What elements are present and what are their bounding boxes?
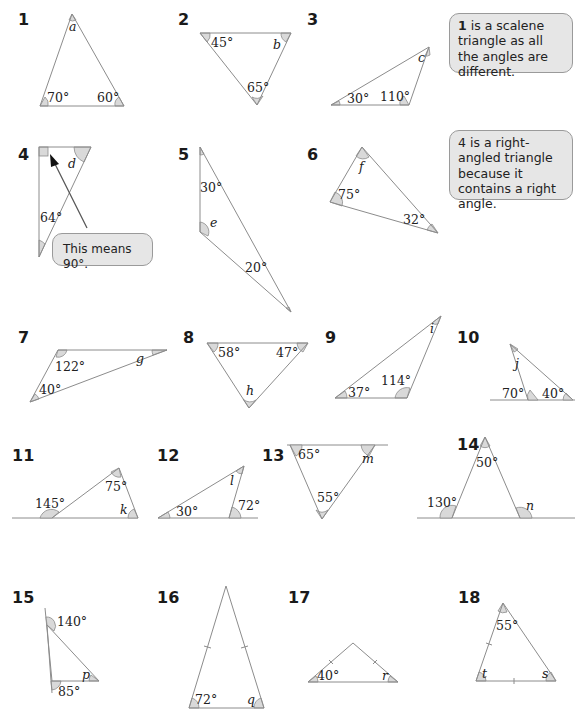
angle-label-e: e — [210, 215, 217, 230]
angle-label-55: 55° — [496, 618, 518, 633]
angle-label-32: 32° — [403, 212, 425, 227]
angle-label-d: d — [68, 156, 76, 171]
triangle-16: 72° q — [189, 586, 264, 708]
angle-label-122: 122° — [55, 359, 85, 374]
angle-label-20: 20° — [245, 260, 267, 275]
angle-label-70: 70° — [47, 90, 69, 105]
angle-label-45: 45° — [211, 35, 233, 50]
triangle-1: a 70° 60° — [40, 14, 124, 106]
triangle-10: j 70° 40° — [490, 344, 575, 401]
angle-label-85: 85° — [58, 684, 80, 699]
angle-label-30: 30° — [347, 91, 369, 106]
angle-label-140: 140° — [57, 614, 87, 629]
pointer-arrowhead-icon — [50, 154, 59, 167]
angle-label-60: 60° — [97, 90, 119, 105]
angle-label-72: 72° — [238, 498, 260, 513]
angle-label-40: 40° — [542, 386, 564, 401]
angle-label-h: h — [246, 383, 254, 398]
angle-label-75: 75° — [338, 187, 360, 202]
angle-label-n: n — [526, 498, 534, 513]
triangle-15: 140° p 85° — [45, 608, 99, 699]
angle-label-47: 47° — [276, 345, 298, 360]
angle-label-64: 64° — [40, 210, 62, 225]
angle-label-70: 70° — [502, 386, 524, 401]
angle-label-145: 145° — [35, 496, 65, 511]
triangle-7: 122° 40° g — [30, 350, 167, 402]
angle-label-b: b — [273, 37, 281, 52]
angle-label-72: 72° — [195, 692, 217, 707]
angle-label-l: l — [230, 473, 234, 488]
angle-label-50: 50° — [476, 455, 498, 470]
angle-label-q: q — [247, 692, 255, 707]
triangle-6: f 75° 32° — [330, 147, 438, 233]
triangle-9: 37° 114° i — [335, 316, 441, 400]
angle-label-c: c — [418, 50, 425, 65]
angle-label-p: p — [82, 667, 90, 682]
angle-label-75: 75° — [105, 479, 127, 494]
triangle-2: 45° b 65° — [200, 33, 291, 105]
angle-label-40: 40° — [317, 668, 339, 683]
triangle-17: 40° r — [308, 643, 398, 683]
angle-label-j: j — [512, 356, 519, 371]
triangle-13: 65° m 55° — [287, 445, 388, 519]
angle-label-k: k — [120, 502, 128, 517]
triangle-3: 30° 110° c — [331, 47, 430, 106]
angle-label-65: 65° — [247, 80, 269, 95]
angle-label-t: t — [482, 666, 488, 681]
triangle-18: 55° t s — [476, 603, 556, 684]
triangle-4: d 64° — [39, 147, 91, 257]
angle-label-37: 37° — [348, 385, 370, 400]
angle-label-30: 30° — [200, 180, 222, 195]
angle-label-58: 58° — [218, 345, 240, 360]
angle-label-m: m — [362, 451, 374, 466]
angle-label-55: 55° — [317, 490, 339, 505]
angle-label-f: f — [358, 159, 366, 174]
angle-label-114: 114° — [381, 373, 411, 388]
triangle-14: 50° 130° n — [417, 437, 575, 518]
angle-label-130: 130° — [427, 495, 457, 510]
angle-label-30: 30° — [176, 504, 198, 519]
angle-label-40: 40° — [39, 382, 61, 397]
triangle-12: 30° l 72° — [158, 466, 260, 519]
angle-label-i: i — [430, 321, 434, 336]
angle-label-65: 65° — [298, 447, 320, 462]
triangle-5: 30° e 20° — [200, 147, 291, 312]
angle-label-r: r — [382, 668, 389, 683]
angle-label-110: 110° — [380, 89, 410, 104]
angle-label-s: s — [542, 666, 548, 681]
angle-label-g: g — [136, 351, 144, 366]
angle-label-a: a — [69, 19, 76, 34]
triangle-11: 145° 75° k — [12, 468, 138, 518]
triangle-8: 58° 47° h — [207, 343, 308, 408]
right-angle-marker — [39, 147, 48, 156]
